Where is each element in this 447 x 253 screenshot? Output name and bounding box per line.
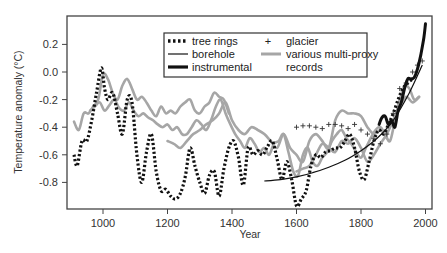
- glacier-marker: [300, 123, 305, 128]
- multi-proxy-line: [74, 74, 229, 131]
- glacier-marker: [320, 126, 325, 131]
- x-tick-label: 1800: [349, 217, 373, 229]
- instrumental-line: [379, 24, 425, 128]
- borehole-line: [264, 65, 422, 181]
- y-tick-label: -0.8: [39, 176, 58, 188]
- glacier-marker: [339, 123, 344, 128]
- legend-glacier-marker-icon: +: [265, 35, 271, 47]
- legend-borehole-label: borehole: [192, 48, 235, 60]
- legend-multi-proxy-label: various multi-proxy: [286, 48, 379, 60]
- glacier-marker: [294, 125, 299, 130]
- glacier-marker: [307, 123, 312, 128]
- y-axis: 0.20.0-0.2-0.4-0.6-0.8: [39, 38, 67, 188]
- glacier-marker: [326, 122, 331, 127]
- x-tick-label: 1200: [155, 217, 179, 229]
- y-tick-label: -0.6: [39, 149, 58, 161]
- y-tick-label: 0.2: [43, 38, 58, 50]
- x-axis-label: Year: [239, 228, 261, 240]
- glacier-marker: [365, 132, 370, 137]
- y-tick-label: 0.0: [43, 66, 58, 78]
- legend-multi-proxy-label-cont: records: [286, 61, 323, 73]
- y-tick-label: -0.2: [39, 94, 58, 106]
- legend-glacier-label: glacier: [286, 35, 319, 47]
- x-tick-label: 2000: [413, 217, 437, 229]
- glacier-marker: [352, 122, 357, 127]
- glacier-marker: [410, 70, 415, 75]
- y-tick-label: -0.4: [39, 121, 58, 133]
- x-tick-label: 1600: [284, 217, 308, 229]
- glacier-marker: [359, 127, 364, 132]
- x-tick-label: 1000: [91, 217, 115, 229]
- legend-tree-rings-label: tree rings: [192, 35, 238, 47]
- y-axis-label: Temperature anomaly (°C): [12, 50, 24, 173]
- legend: tree rings borehole instrumental + glaci…: [164, 33, 379, 77]
- legend-instrumental-label: instrumental: [192, 61, 252, 73]
- glacier-marker: [346, 126, 351, 131]
- glacier-marker: [313, 125, 318, 130]
- temperature-anomaly-chart: 0.20.0-0.2-0.4-0.6-0.8 10001200140016001…: [0, 0, 447, 253]
- tree-rings-line: [74, 68, 413, 207]
- x-axis: 100012001400160018002000: [91, 209, 438, 229]
